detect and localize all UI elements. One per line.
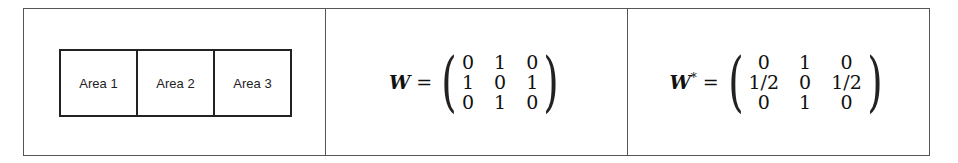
area-1: Area 1	[61, 51, 136, 115]
matrix-entry: 0	[462, 52, 474, 72]
matrix-entry: 0	[526, 52, 538, 72]
area-2: Area 2	[136, 51, 213, 115]
equals-sign: =	[703, 71, 719, 93]
figure-table: Area 1 Area 2 Area 3 W = ( 0 1 0 1 0 1 0…	[23, 8, 930, 156]
matrix-entry: 0	[831, 92, 862, 112]
equals-sign: =	[416, 71, 432, 93]
matrix-entry: 1	[799, 92, 811, 112]
matrix-w-star-label: W*	[669, 71, 696, 93]
matrix-entry: 0	[526, 92, 538, 112]
left-paren: (	[728, 49, 743, 115]
matrix-entry: 1	[799, 52, 811, 72]
right-paren: )	[867, 49, 882, 115]
matrix-entry: 0	[494, 72, 506, 92]
matrix-entry: 1/2	[831, 72, 862, 92]
right-paren: )	[543, 49, 558, 115]
left-paren: (	[441, 49, 456, 115]
matrix-entry: 1	[494, 92, 506, 112]
matrix-entry: 1	[462, 72, 474, 92]
matrix-w-star-grid: 0 1 0 1/2 0 1/2 0 1 0	[749, 52, 862, 112]
matrix-entry: 1	[494, 52, 506, 72]
matrix-w-grid: 0 1 0 1 0 1 0 1 0	[462, 52, 538, 112]
matrix-entry: 0	[462, 92, 474, 112]
matrix-entry: 0	[799, 72, 811, 92]
matrix-entry: 0	[749, 52, 780, 72]
matrix-w-equation: W = ( 0 1 0 1 0 1 0 1 0 )	[326, 9, 627, 155]
area-3: Area 3	[213, 51, 290, 115]
areas-cell: Area 1 Area 2 Area 3	[24, 9, 326, 155]
matrix-w-star-cell: W* = ( 0 1 0 1/2 0 1/2 0 1 0 )	[628, 9, 929, 155]
areas-diagram: Area 1 Area 2 Area 3	[59, 49, 292, 117]
matrix-w-label: W	[389, 71, 410, 93]
matrix-w-star-equation: W* = ( 0 1 0 1/2 0 1/2 0 1 0 )	[628, 9, 929, 155]
matrix-entry: 0	[831, 52, 862, 72]
matrix-entry: 0	[749, 92, 780, 112]
matrix-w-cell: W = ( 0 1 0 1 0 1 0 1 0 )	[326, 9, 628, 155]
matrix-entry: 1/2	[749, 72, 780, 92]
matrix-entry: 1	[526, 72, 538, 92]
